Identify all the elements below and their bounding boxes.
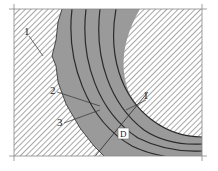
label-2: 2 bbox=[50, 84, 56, 96]
diagram-canvas: 1 2 3 1 D bbox=[0, 0, 218, 171]
label-d: D bbox=[120, 129, 127, 139]
label-3: 3 bbox=[57, 116, 63, 128]
label-1-right: 1 bbox=[143, 89, 149, 101]
label-1-top-left: 1 bbox=[24, 25, 30, 37]
